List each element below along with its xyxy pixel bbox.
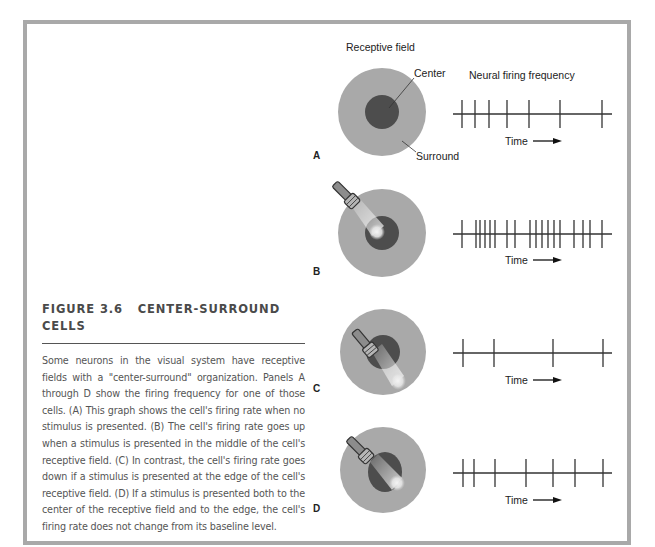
spike-train-b	[453, 220, 612, 248]
light-spot	[390, 372, 406, 390]
neural-firing-frequency-label: Neural firing frequency	[469, 69, 575, 81]
panel-a: Center Surround A Time	[313, 67, 612, 162]
center-region	[365, 95, 399, 129]
time-arrow-icon	[533, 377, 562, 383]
panel-letter-c: C	[313, 383, 320, 394]
spike-train-c	[453, 339, 612, 367]
light-spot	[369, 224, 385, 240]
spike-train-a	[453, 100, 612, 128]
panel-letter-a: A	[313, 150, 320, 161]
center-surround-diagram: Receptive field Neural firing frequency …	[0, 0, 655, 547]
panel-letter-b: B	[313, 266, 320, 277]
time-label-d: Time	[505, 494, 528, 506]
surround-label: Surround	[416, 150, 459, 162]
time-label-a: Time	[505, 135, 528, 147]
panel-d: D Time	[313, 427, 612, 514]
flashlight-icon	[330, 179, 360, 209]
time-arrow-icon	[533, 138, 562, 144]
panel-b: B Time	[313, 179, 612, 277]
time-label-c: Time	[505, 374, 528, 386]
panel-c: C Time	[313, 309, 612, 395]
time-arrow-icon	[533, 497, 562, 503]
time-arrow-icon	[533, 257, 562, 263]
receptive-field-label: Receptive field	[346, 41, 415, 53]
spike-train-d	[453, 459, 612, 487]
panel-letter-d: D	[313, 503, 320, 514]
time-label-b: Time	[505, 254, 528, 266]
center-label: Center	[414, 67, 446, 79]
light-spot	[389, 475, 405, 491]
